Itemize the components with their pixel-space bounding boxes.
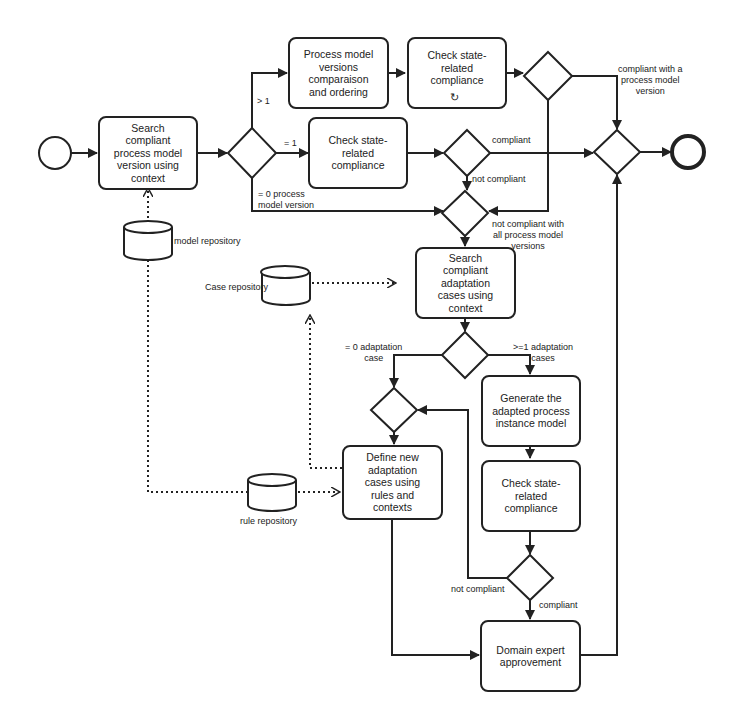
flow-label-gt1: > 1: [257, 96, 270, 107]
flow-label-compliant-bottom: compliant: [539, 600, 578, 611]
flow-label-compliant-with-pmv: compliant with a process model version: [618, 64, 683, 97]
task-label: Check state- related compliance: [428, 49, 487, 87]
end-event: [672, 136, 704, 168]
flow-label-not-compliant-top: not compliant: [472, 174, 526, 185]
gateway-single-compliance: [444, 130, 490, 176]
flow-label-compliant-top: compliant: [492, 135, 531, 146]
task-generate-adapted-model: Generate the adapted process instance mo…: [481, 375, 581, 447]
flow-label-eq1: = 1: [284, 138, 297, 149]
flow-label-eq0-pmv: = 0 process model version: [258, 189, 314, 211]
gateway-case-count: [442, 332, 488, 378]
task-process-model-versions-comparison: Process model versions comparaison and o…: [288, 37, 389, 109]
task-define-new-adaptation-cases: Define new adaptation cases using rules …: [342, 445, 443, 520]
flow-label-eq0-cases: = 0 adaptation case: [345, 342, 402, 364]
flow-label-not-compliant-bottom: not compliant: [451, 584, 505, 595]
gateway-merge-define: [371, 388, 417, 432]
rule-repository-icon: [248, 474, 296, 511]
flow-label-ge1-cases: >=1 adaptation cases: [513, 342, 573, 364]
gateway-version-count: [228, 128, 276, 178]
flow-label-not-compliant-all: not compliant with all process model ver…: [492, 219, 564, 252]
loop-marker-icon: ↻: [450, 91, 459, 104]
start-event: [39, 137, 71, 169]
case-repository-label: Case repository: [205, 282, 268, 293]
task-search-process-model-version: Search compliant process model version u…: [98, 116, 198, 190]
gateway-merge-end: [594, 130, 640, 174]
task-check-compliance-single: Check state- related compliance: [308, 117, 408, 189]
gateway-adapted-compliance: [507, 555, 553, 600]
task-search-adaptation-cases: Search compliant adaptation cases using …: [415, 247, 516, 319]
model-repository-label: model repository: [174, 236, 241, 247]
task-domain-expert-approvement: Domain expert approvement: [480, 620, 581, 692]
gateway-multi-compliance: [524, 52, 572, 100]
gateway-merge-noncompliant: [442, 191, 488, 236]
task-check-compliance-adapted: Check state- related compliance: [481, 460, 581, 532]
case-repository-icon: [261, 266, 310, 305]
rule-repository-label: rule repository: [240, 516, 297, 527]
model-repository-icon: [124, 221, 172, 260]
